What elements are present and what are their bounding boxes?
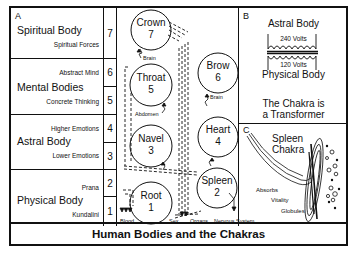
- transformer-caption-line1: The Chakra is: [239, 98, 348, 109]
- lower-emotions-label: Lower Emotions: [52, 152, 99, 159]
- spiritual-forces-label: Spiritual Forces: [54, 41, 99, 48]
- chakra-spleen-number: 2: [197, 187, 237, 199]
- spiritual-body-label: Spiritual Body: [17, 24, 82, 36]
- globules-label: Globules: [281, 208, 305, 214]
- brain-label-left: Brain: [143, 55, 156, 61]
- chakra-brow: Brow 6: [198, 60, 238, 84]
- abstract-mind-label: Abstract Mind: [59, 69, 99, 76]
- panel-a: A Spiritual Body Spiritual Forces 7 Abst…: [11, 8, 117, 226]
- brain-label-right: Brain: [210, 94, 223, 100]
- panel-b: B Astral Body 240 Volts 120 Volts Physic…: [239, 8, 348, 123]
- chakra-heart: Heart 4: [198, 124, 238, 148]
- astral-body-row: Higher Emotions Astral Body Lower Emotio…: [11, 115, 103, 170]
- chakra-crown: Crown 7: [131, 17, 171, 41]
- physical-body-label: Physical Body: [17, 194, 83, 206]
- mental-bodies-row: Abstract Mind Mental Bodies Concrete Thi…: [11, 59, 103, 115]
- chakra-brow-name: Brow: [198, 60, 238, 72]
- chakra-spleen: Spleen 2: [197, 175, 237, 199]
- concrete-thinking-label: Concrete Thinking: [46, 98, 99, 105]
- layer-number-7: 7: [103, 8, 117, 59]
- chakra-root-number: 1: [131, 202, 171, 214]
- chakra-navel: Navel 3: [131, 133, 171, 157]
- chakra-panel: Crown 7 Throat 5 Navel 3 Root 1 Brow 6 H…: [119, 8, 239, 226]
- kundalini-label: Kundalini: [72, 211, 99, 218]
- figure-title-text: Human Bodies and the Chakras: [92, 228, 265, 240]
- higher-emotions-label: Higher Emotions: [51, 125, 99, 132]
- chakra-root-name: Root: [131, 190, 171, 202]
- layer-number-4: 4: [103, 115, 117, 143]
- abdomen-label: Abdomen: [135, 111, 159, 117]
- chakra-crown-name: Crown: [131, 17, 171, 29]
- chakra-heart-name: Heart: [198, 124, 238, 136]
- chakra-root: Root 1: [131, 190, 171, 214]
- astral-body-top-label: Astral Body: [239, 18, 348, 29]
- absorbs-label: Absorbs: [256, 187, 278, 193]
- layer-number-5: 5: [103, 87, 117, 115]
- physical-body-bottom-label: Physical Body: [239, 69, 348, 80]
- layer-number-2: 2: [103, 170, 117, 197]
- chakra-navel-number: 3: [131, 145, 171, 157]
- layer-number-3: 3: [103, 143, 117, 170]
- chakra-crown-number: 7: [131, 29, 171, 41]
- chakra-brow-number: 6: [198, 72, 238, 84]
- prana-label: Prana: [82, 184, 99, 191]
- chakra-spleen-name: Spleen: [197, 175, 237, 187]
- chakra-heart-number: 4: [198, 136, 238, 148]
- vitality-label: Vitality: [271, 197, 289, 203]
- mental-bodies-label: Mental Bodies: [17, 81, 84, 93]
- chakra-throat-name: Throat: [131, 72, 171, 84]
- diagram-frame: A Spiritual Body Spiritual Forces 7 Abst…: [9, 6, 348, 246]
- chakra-throat: Throat 5: [131, 72, 171, 96]
- transformer-caption-line2: a Transformer: [239, 109, 348, 120]
- chakra-throat-number: 5: [131, 84, 171, 96]
- figure-title: Human Bodies and the Chakras: [11, 222, 346, 244]
- panel-c: C Spleen Chakra: [239, 124, 348, 226]
- layer-number-6: 6: [103, 59, 117, 87]
- spiritual-body-row: Spiritual Body Spiritual Forces: [11, 8, 103, 59]
- physical-body-row: Prana Physical Body Kundalini: [11, 170, 103, 226]
- chakra-navel-name: Navel: [131, 133, 171, 145]
- voltage-120-label: 120 Volts: [239, 61, 348, 68]
- astral-body-label: Astral Body: [17, 135, 71, 147]
- voltage-240-label: 240 Volts: [239, 35, 348, 42]
